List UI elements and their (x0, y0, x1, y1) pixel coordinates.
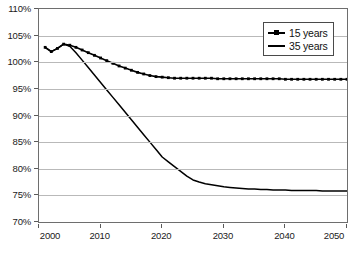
data-point-marker (290, 78, 293, 81)
data-point-marker (173, 77, 176, 80)
gridline (39, 89, 347, 90)
data-point-marker (241, 77, 244, 80)
x-axis-tick-label: 2010 (89, 230, 109, 241)
y-axis-tick-label: 95% (13, 82, 31, 93)
data-point-marker (44, 46, 47, 49)
data-point-marker (99, 57, 102, 60)
legend-item-15-years: 15 years (268, 26, 328, 39)
data-point-marker (327, 78, 330, 81)
data-point-marker (210, 77, 213, 80)
data-point-marker (75, 46, 78, 49)
y-axis-tick-label: 75% (13, 189, 31, 200)
data-point-marker (81, 49, 84, 52)
data-point-marker (56, 47, 59, 50)
data-point-marker (204, 77, 207, 80)
data-point-marker (315, 78, 318, 81)
data-point-marker (192, 77, 195, 80)
data-point-marker (93, 54, 96, 57)
x-axis-tick-label: 2040 (274, 230, 294, 241)
data-point-marker (333, 78, 336, 81)
gridline (39, 62, 347, 63)
data-point-marker (259, 77, 262, 80)
legend-label-35-years: 35 years (289, 40, 328, 52)
x-axis-tick-label: 2050 (324, 230, 344, 241)
x-axis-tick-mark (161, 224, 162, 228)
data-point-marker (266, 77, 269, 80)
data-point-marker (272, 77, 275, 80)
y-axis-tick-label: 70% (13, 216, 31, 227)
data-point-marker (148, 74, 151, 77)
data-point-marker (142, 73, 145, 76)
legend: 15 years 35 years (263, 22, 334, 56)
gridline (39, 142, 347, 143)
data-point-marker (198, 77, 201, 80)
data-point-marker (253, 77, 256, 80)
data-point-marker (118, 65, 121, 68)
x-axis-tick-label: 2000 (40, 230, 60, 241)
y-axis-tick-label: 85% (13, 136, 31, 147)
data-point-marker (130, 69, 133, 72)
data-point-marker (87, 51, 90, 54)
data-point-marker (339, 78, 342, 81)
data-point-marker (235, 77, 238, 80)
data-point-marker (247, 77, 250, 80)
data-point-marker (167, 76, 170, 79)
legend-item-35-years: 35 years (268, 39, 328, 52)
x-axis: 200020102020203020402050 (38, 224, 348, 244)
data-point-marker (229, 77, 232, 80)
data-point-marker (185, 77, 188, 80)
x-axis-tick-label: 2030 (213, 230, 233, 241)
y-axis-tick-label: 90% (13, 109, 31, 120)
legend-label-15-years: 15 years (289, 27, 328, 39)
data-point-marker (302, 78, 305, 81)
data-point-marker (321, 78, 324, 81)
x-axis-tick-mark (284, 224, 285, 228)
data-point-marker (278, 77, 281, 80)
x-axis-tick-mark (223, 224, 224, 228)
gridline (39, 116, 347, 117)
data-point-marker (68, 44, 71, 47)
data-point-marker (216, 77, 219, 80)
data-point-marker (222, 77, 225, 80)
y-axis-tick-label: 110% (8, 3, 31, 14)
caption-text (6, 251, 216, 259)
data-point-marker (136, 71, 139, 74)
chart-container: 110%105%100%95%90%85%80%75%70% 200020102… (0, 0, 363, 259)
data-point-marker (50, 50, 53, 53)
data-point-marker (309, 78, 312, 81)
y-axis-tick-label: 80% (13, 162, 31, 173)
x-axis-tick-mark (100, 224, 101, 228)
gridline (39, 195, 347, 196)
data-point-marker (284, 78, 287, 81)
legend-marker-line-icon (268, 27, 285, 38)
y-axis-tick-label: 105% (8, 29, 32, 40)
data-point-marker (296, 78, 299, 81)
data-point-marker (179, 77, 182, 80)
y-axis-tick-label: 100% (8, 56, 32, 67)
data-point-marker (346, 78, 347, 81)
y-axis: 110%105%100%95%90%85%80%75%70% (0, 0, 38, 231)
x-axis-tick-mark (346, 224, 347, 228)
x-axis-tick-mark (38, 224, 39, 228)
data-point-marker (62, 43, 65, 46)
data-point-marker (161, 76, 164, 79)
data-point-marker (155, 75, 158, 78)
legend-plain-line-icon (268, 40, 285, 51)
gridline (39, 169, 347, 170)
x-axis-tick-label: 2020 (151, 230, 171, 241)
data-point-marker (124, 67, 127, 70)
